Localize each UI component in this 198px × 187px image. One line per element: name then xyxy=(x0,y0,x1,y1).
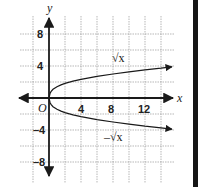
right-edge-bar xyxy=(193,0,198,187)
x-axis-label: x xyxy=(176,91,183,105)
sqrt-x-label: √x xyxy=(112,51,125,65)
x-tick-4: 4 xyxy=(78,103,85,115)
origin-label: O xyxy=(38,101,47,115)
function-graph: y x O 4 8 12 8 4 –4 –8 √x –√x xyxy=(0,0,198,187)
neg-sqrt-x-label: –√x xyxy=(103,130,123,144)
y-tick-8: 8 xyxy=(37,28,43,40)
y-axis-label: y xyxy=(46,1,53,15)
x-tick-8: 8 xyxy=(108,103,114,115)
y-tick-4: 4 xyxy=(37,60,44,72)
x-tick-12: 12 xyxy=(138,103,150,115)
sqrt-x-curve xyxy=(49,67,172,98)
y-tick-neg4: –4 xyxy=(33,124,46,136)
y-tick-neg8: –8 xyxy=(33,156,45,168)
